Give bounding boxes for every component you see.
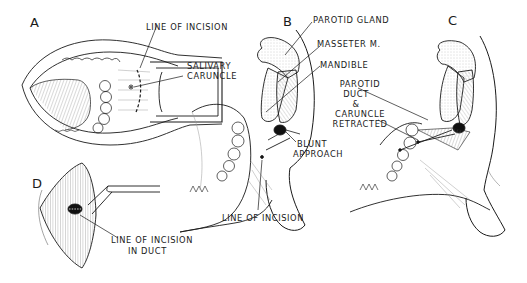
label-a-caruncle: CARUNCLE	[187, 71, 237, 81]
label-d-in-duct: IN DUCT	[128, 246, 167, 256]
label-b-mandible: MANDIBLE	[320, 60, 368, 70]
label-c-duct: DUCT	[330, 89, 382, 99]
label-c-retracted: RETRACTED	[328, 119, 392, 129]
panel-a-drawing	[22, 25, 222, 145]
anatomical-figure: A B C D LINE OF INCISION SALIVARY CARUNC…	[0, 0, 527, 283]
panel-label-b: B	[283, 15, 292, 29]
label-b-line-of-incision: LINE OF INCISION	[222, 213, 304, 223]
label-b-parotid-gland: PAROTID GLAND	[313, 15, 389, 25]
panel-b-drawing	[180, 22, 320, 232]
label-c-parotid: PAROTID	[330, 79, 390, 89]
label-b-approach: APPROACH	[293, 149, 343, 159]
label-d-line-of-incision: LINE OF INCISION	[111, 235, 193, 245]
label-c-caruncle: CARUNCLE	[330, 109, 390, 119]
panel-label-a: A	[30, 16, 39, 30]
panel-c-drawing	[350, 36, 505, 236]
panel-label-c: C	[448, 14, 457, 28]
panel-label-d: D	[32, 177, 42, 191]
label-a-salivary: SALIVARY	[187, 61, 231, 71]
illustration-artwork	[0, 0, 527, 283]
label-c-ampersand: &	[330, 99, 382, 109]
label-b-blunt: BLUNT	[297, 139, 327, 149]
label-b-masseter: MASSETER M.	[317, 39, 381, 49]
label-a-line-of-incision: LINE OF INCISION	[146, 22, 228, 32]
